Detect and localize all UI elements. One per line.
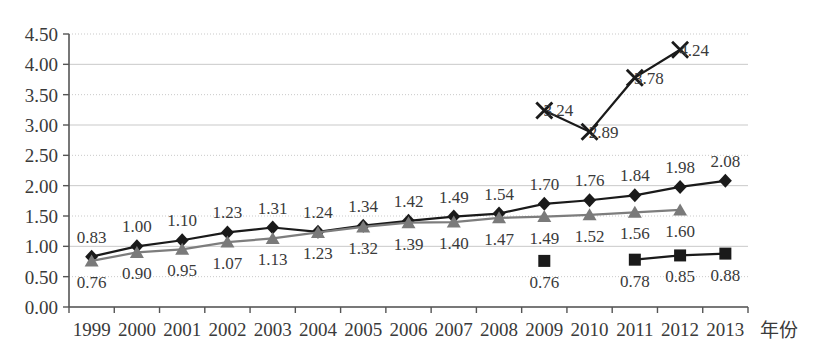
data-label: 1.23: [303, 244, 333, 263]
data-label: 3.78: [634, 69, 664, 88]
data-label: 1.13: [258, 250, 288, 269]
data-label: 1.00: [122, 217, 152, 236]
data-label: 1.49: [439, 188, 469, 207]
data-label: 1.84: [620, 166, 650, 185]
data-label: 0.76: [529, 273, 559, 292]
x-tick-label: 2009: [525, 319, 563, 340]
y-tick-label: 0.50: [25, 267, 58, 288]
data-label: 4.24: [679, 41, 709, 60]
data-label: 0.83: [77, 228, 107, 247]
data-label: 0.78: [620, 272, 650, 291]
y-tick-label: 1.00: [25, 236, 58, 257]
x-tick-label: 2012: [661, 319, 699, 340]
data-label: 2.89: [589, 123, 619, 142]
x-tick-label: 2013: [706, 319, 744, 340]
data-point-marker: [538, 197, 551, 211]
data-label: 0.85: [665, 267, 695, 286]
data-point-marker: [583, 193, 596, 207]
x-tick-label: 2000: [118, 319, 156, 340]
x-tick-label: 2006: [390, 319, 428, 340]
x-tick-label: 2001: [163, 319, 201, 340]
x-tick-label: 2004: [299, 319, 338, 340]
data-label: 1.24: [303, 203, 333, 222]
data-point-marker: [674, 249, 686, 261]
y-tick-label: 2.50: [25, 145, 58, 166]
data-label: 1.39: [394, 235, 424, 254]
y-tick-label: 1.50: [25, 206, 58, 227]
data-point-marker: [628, 188, 641, 202]
data-point-marker: [719, 248, 731, 260]
data-label: 1.40: [439, 234, 469, 253]
y-tick-label: 4.50: [25, 24, 58, 45]
y-tick-label: 2.00: [25, 176, 58, 197]
x-tick-label: 1999: [73, 319, 111, 340]
y-tick-labels-group: 0.000.501.001.502.002.503.003.504.004.50: [25, 24, 58, 318]
data-label: 1.34: [348, 197, 378, 216]
data-label: 1.76: [575, 171, 605, 190]
x-axis-title: 年份: [760, 320, 798, 341]
data-point-marker: [538, 255, 550, 267]
x-tick-label: 2007: [435, 319, 473, 340]
y-tick-label: 3.00: [25, 115, 58, 136]
data-label: 0.76: [77, 273, 107, 292]
x-tick-label: 2002: [208, 319, 246, 340]
data-label: 1.42: [394, 192, 424, 211]
data-label: 1.23: [213, 203, 243, 222]
x-tick-label: 2011: [616, 319, 653, 340]
line-chart-plot: 0.000.501.001.502.002.503.003.504.004.50…: [0, 0, 816, 353]
x-tick-label: 2005: [344, 319, 382, 340]
data-label: 1.56: [620, 224, 650, 243]
y-tick-label: 4.00: [25, 54, 58, 75]
series-square: [538, 248, 731, 267]
y-tick-label: 0.00: [25, 297, 58, 318]
data-label: 0.90: [122, 264, 152, 283]
data-label: 0.88: [710, 266, 740, 285]
data-label: 3.24: [543, 101, 573, 120]
data-point-marker: [629, 254, 641, 266]
data-point-marker: [674, 180, 687, 194]
data-label: 2.08: [710, 152, 740, 171]
data-label: 1.32: [348, 239, 378, 258]
data-label: 1.70: [529, 175, 559, 194]
x-tick-label: 2003: [254, 319, 292, 340]
data-label: 0.95: [167, 261, 197, 280]
data-label: 1.49: [529, 229, 559, 248]
data-label: 1.07: [213, 254, 243, 273]
x-tick-label: 2008: [480, 319, 518, 340]
x-tick-label: 2010: [571, 319, 609, 340]
data-label: 1.60: [665, 222, 695, 241]
data-label: 1.10: [167, 211, 197, 230]
data-label: 1.52: [575, 227, 605, 246]
data-label: 1.98: [665, 158, 695, 177]
x-tick-labels-group: 1999200020012002200320042005200620072008…: [73, 319, 745, 340]
data-label: 1.47: [484, 230, 514, 249]
y-tick-label: 3.50: [25, 85, 58, 106]
chart-container: 0.000.501.001.502.002.503.003.504.004.50…: [0, 0, 816, 353]
data-label: 1.54: [484, 185, 514, 204]
data-label: 1.31: [258, 199, 288, 218]
